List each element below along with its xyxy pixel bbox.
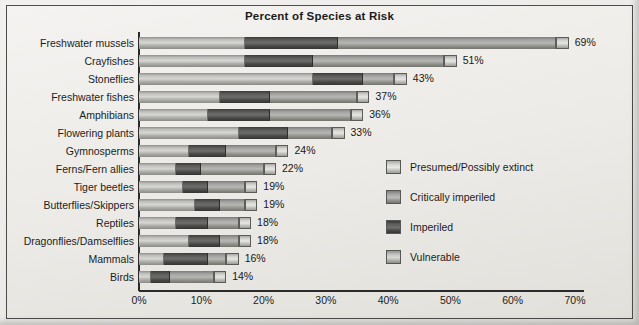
x-axis-tick-label: 20% <box>244 294 284 306</box>
bar-segment-presumed-possibly-extinct <box>444 55 456 67</box>
bar-value-label: 37% <box>375 90 396 102</box>
bar-row: 43% <box>0 73 639 85</box>
bar-segment-vulnerable <box>139 73 313 85</box>
bar-segment-critically-imperiled <box>220 199 245 211</box>
bar-row: 22% <box>0 163 639 175</box>
bar-segment-imperiled <box>183 181 208 193</box>
x-axis-tick-label: 70% <box>555 294 595 306</box>
bar-row: 51% <box>0 55 639 67</box>
bar-row: 24% <box>0 145 639 157</box>
bar-segment-presumed-possibly-extinct <box>239 235 251 247</box>
bar-row: 69% <box>0 37 639 49</box>
bar-segment-presumed-possibly-extinct <box>239 217 251 229</box>
x-axis-tick-label: 0% <box>119 294 159 306</box>
bar-segment-critically-imperiled <box>338 37 556 49</box>
bar-segment-vulnerable <box>139 37 245 49</box>
bar-segment-presumed-possibly-extinct <box>351 109 363 121</box>
bar-row: 18% <box>0 217 639 229</box>
bar-segment-presumed-possibly-extinct <box>245 181 257 193</box>
bar-segment-imperiled <box>189 235 220 247</box>
bar-segment-presumed-possibly-extinct <box>245 199 257 211</box>
bar-segment-vulnerable <box>139 181 183 193</box>
bar-segment-critically-imperiled <box>288 127 332 139</box>
x-axis-tick-label: 30% <box>306 294 346 306</box>
bar-segment-vulnerable <box>139 127 239 139</box>
bar-row: 19% <box>0 199 639 211</box>
bar-row: 36% <box>0 109 639 121</box>
bar-segment-critically-imperiled <box>220 235 239 247</box>
bar-row: 19% <box>0 181 639 193</box>
bar-segment-imperiled <box>164 253 208 265</box>
bar-value-label: 18% <box>257 234 278 246</box>
bar-value-label: 24% <box>294 144 315 156</box>
bar-segment-critically-imperiled <box>270 109 351 121</box>
bar-segment-vulnerable <box>139 109 208 121</box>
bar-segment-critically-imperiled <box>170 271 214 283</box>
bar-value-label: 36% <box>369 108 390 120</box>
bar-segment-vulnerable <box>139 271 151 283</box>
bar-segment-critically-imperiled <box>208 217 239 229</box>
bar-segment-imperiled <box>208 109 270 121</box>
bar-segment-presumed-possibly-extinct <box>226 253 238 265</box>
bar-segment-vulnerable <box>139 253 164 265</box>
bar-segment-presumed-possibly-extinct <box>276 145 288 157</box>
bar-value-label: 43% <box>413 72 434 84</box>
bar-segment-imperiled <box>195 199 220 211</box>
bar-segment-vulnerable <box>139 199 195 211</box>
bar-value-label: 16% <box>245 252 266 264</box>
bar-segment-vulnerable <box>139 55 245 67</box>
bar-row: 14% <box>0 271 639 283</box>
bar-value-label: 19% <box>263 180 284 192</box>
x-axis-tick-label: 40% <box>368 294 408 306</box>
x-axis-tick-label: 50% <box>430 294 470 306</box>
bar-segment-imperiled <box>239 127 289 139</box>
bar-segment-imperiled <box>176 217 207 229</box>
bar-segment-imperiled <box>245 55 314 67</box>
x-axis-line <box>139 290 584 292</box>
bar-segment-presumed-possibly-extinct <box>394 73 406 85</box>
bar-row: 16% <box>0 253 639 265</box>
bar-segment-presumed-possibly-extinct <box>357 91 369 103</box>
bar-segment-critically-imperiled <box>226 145 276 157</box>
bar-segment-vulnerable <box>139 163 176 175</box>
bar-value-label: 14% <box>232 270 253 282</box>
bar-segment-vulnerable <box>139 217 176 229</box>
bar-row: 18% <box>0 235 639 247</box>
x-axis-tick-label: 60% <box>493 294 533 306</box>
bar-segment-imperiled <box>313 73 363 85</box>
bar-segment-imperiled <box>245 37 338 49</box>
bar-segment-presumed-possibly-extinct <box>332 127 344 139</box>
bar-value-label: 33% <box>351 126 372 138</box>
bar-segment-imperiled <box>189 145 226 157</box>
bar-value-label: 69% <box>575 36 596 48</box>
bar-segment-critically-imperiled <box>313 55 444 67</box>
bar-segment-vulnerable <box>139 235 189 247</box>
bar-row: 33% <box>0 127 639 139</box>
bar-segment-critically-imperiled <box>208 181 245 193</box>
bar-segment-imperiled <box>176 163 201 175</box>
x-axis-tick-label: 10% <box>181 294 221 306</box>
bar-segment-critically-imperiled <box>208 253 227 265</box>
bar-segment-presumed-possibly-extinct <box>214 271 226 283</box>
chart-title: Percent of Species at Risk <box>0 10 639 22</box>
bar-segment-imperiled <box>220 91 270 103</box>
bar-value-label: 18% <box>257 216 278 228</box>
bar-segment-critically-imperiled <box>363 73 394 85</box>
bar-segment-critically-imperiled <box>201 163 263 175</box>
category-axis-labels: Freshwater musselsCrayfishesStonefliesFr… <box>0 32 134 290</box>
bar-row: 37% <box>0 91 639 103</box>
bar-value-label: 19% <box>263 198 284 210</box>
chart-figure: Percent of Species at Risk Freshwater mu… <box>0 0 639 325</box>
bar-segment-presumed-possibly-extinct <box>556 37 568 49</box>
bar-segment-critically-imperiled <box>270 91 357 103</box>
bar-value-label: 51% <box>463 54 484 66</box>
bar-segment-vulnerable <box>139 91 220 103</box>
bar-segment-imperiled <box>151 271 170 283</box>
bar-segment-presumed-possibly-extinct <box>264 163 276 175</box>
bar-segment-vulnerable <box>139 145 189 157</box>
bar-value-label: 22% <box>282 162 303 174</box>
